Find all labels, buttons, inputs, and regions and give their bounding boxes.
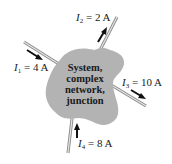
node-label-line-1: System, [58, 62, 112, 73]
arrow-i4-icon [74, 123, 80, 138]
node-label: System, complex network, junction [58, 62, 112, 106]
current-label-i3: I3 = 10 A [122, 76, 162, 92]
current-label-i4: I4 = 8 A [78, 137, 112, 153]
node-label-line-4: junction [58, 95, 112, 106]
node-label-line-2: complex [58, 73, 112, 84]
kcl-diagram: System, complex network, junction I1 = 4… [0, 0, 172, 164]
current-label-i1: I1 = 4 A [14, 61, 48, 77]
node-label-line-3: network, [58, 84, 112, 95]
current-label-i2: I2 = 2 A [76, 11, 110, 27]
